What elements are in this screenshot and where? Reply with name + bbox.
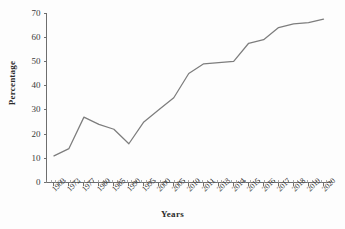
y-tick-label-0: 0 (36, 177, 41, 187)
data-series-line (54, 19, 324, 156)
x-axis-title: Years (0, 209, 345, 219)
y-tick-label-60: 60 (32, 32, 42, 42)
y-tick-label-20: 20 (32, 129, 42, 139)
axes-group (47, 13, 332, 183)
y-tick-labels: 010203040506070 (32, 8, 42, 188)
y-tick-label-70: 70 (32, 8, 42, 18)
y-tick-label-40: 40 (32, 80, 42, 90)
y-tick-label-10: 10 (32, 153, 42, 163)
y-tick-label-50: 50 (32, 56, 42, 66)
line-chart: 010203040506070 196919721977198019851990… (0, 0, 345, 229)
y-tick-label-30: 30 (32, 104, 42, 114)
y-axis-title: Percentage (7, 48, 17, 118)
chart-plot-area: 010203040506070 (0, 0, 345, 229)
